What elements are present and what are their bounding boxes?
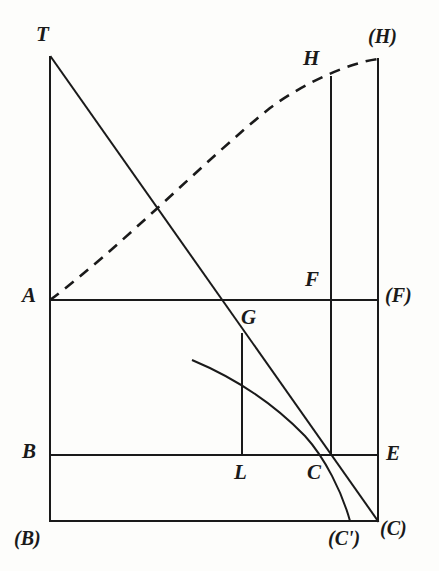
point-label-F: F — [305, 269, 319, 290]
point-label-B2: (B) — [14, 528, 41, 548]
point-label-H: H — [303, 48, 319, 69]
point-label-Cp: (C') — [328, 528, 360, 548]
point-label-E: E — [386, 443, 400, 464]
geometry-figure — [0, 0, 439, 571]
point-label-G: G — [241, 307, 256, 328]
point-label-A: A — [22, 285, 36, 306]
point-label-C: C — [307, 462, 321, 483]
straight-line-T-C — [51, 57, 378, 521]
point-label-H2: (H) — [368, 26, 397, 46]
point-label-L: L — [234, 462, 247, 483]
point-label-C2: (C) — [380, 518, 407, 538]
solid-curve-to-Cprime — [192, 360, 350, 521]
segments-group — [50, 57, 378, 521]
figure-canvas: TH(H)AF(F)GBLCE(B)(C')(C) — [0, 0, 439, 571]
point-label-T: T — [36, 24, 49, 45]
dashed-curve-A-H — [50, 59, 378, 300]
point-label-B: B — [22, 441, 36, 462]
point-label-F2: (F) — [385, 285, 412, 305]
